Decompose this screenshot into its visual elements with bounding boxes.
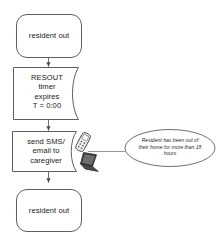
terminator-shape: [17, 190, 82, 232]
node-end-terminator[interactable]: [17, 190, 82, 232]
node-resout-timer[interactable]: [14, 68, 79, 120]
node-send-notification[interactable]: [13, 132, 77, 172]
laptop-icon: [81, 153, 99, 172]
delay-shape: [13, 132, 77, 172]
delay-shape: [14, 68, 79, 120]
flowchart-canvas: [0, 0, 216, 240]
node-start-terminator[interactable]: [17, 15, 82, 58]
ellipse-shape: [125, 130, 215, 167]
terminator-shape: [17, 15, 82, 58]
mobile-phone-icon: [75, 132, 92, 153]
node-annotation-ellipse[interactable]: [125, 130, 215, 167]
